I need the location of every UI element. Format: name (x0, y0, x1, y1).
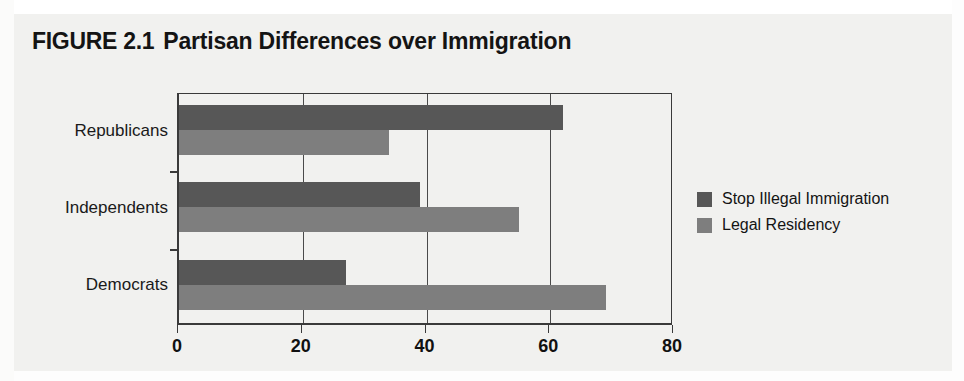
value-tick-80 (672, 325, 673, 333)
value-tick-label-60: 60 (538, 336, 558, 357)
page-edge-right (952, 0, 964, 381)
category-label-republicans: Republicans (18, 121, 168, 141)
legend-item-1[interactable]: Legal Residency (697, 212, 889, 238)
chart-legend: Stop Illegal ImmigrationLegal Residency (697, 186, 889, 238)
figure-number-label: FIGURE 2.1 (32, 28, 154, 54)
value-tick-label-80: 80 (662, 336, 682, 357)
bar-group-democrats (179, 249, 671, 326)
value-tick-60 (548, 325, 549, 333)
value-tick-0 (177, 325, 178, 333)
legend-swatch-stop-illegal-immigration (697, 192, 712, 207)
bar-group-republicans (179, 94, 671, 171)
category-tick-1 (170, 249, 179, 251)
category-label-democrats: Democrats (18, 275, 168, 295)
figure-caption-label: Partisan Differences over Immigration (163, 28, 571, 54)
category-tick-0 (170, 171, 179, 173)
figure-container: FIGURE 2.1Partisan Differences over Immi… (0, 0, 964, 381)
value-axis: 020406080 (177, 325, 672, 365)
bar-democrats-series-0[interactable] (179, 260, 346, 285)
value-tick-label-20: 20 (291, 336, 311, 357)
value-tick-label-0: 0 (172, 336, 182, 357)
legend-label-0: Stop Illegal Immigration (722, 190, 889, 208)
bar-independents-series-1[interactable] (179, 207, 519, 232)
legend-label-1: Legal Residency (722, 216, 840, 234)
legend-item-0[interactable]: Stop Illegal Immigration (697, 186, 889, 212)
bar-republicans-series-0[interactable] (179, 105, 563, 130)
page-edge-bottom (0, 371, 964, 381)
bar-independents-series-0[interactable] (179, 182, 420, 207)
page-edge-left (0, 0, 14, 381)
page-edge-top (0, 0, 964, 14)
figure-title: FIGURE 2.1Partisan Differences over Immi… (32, 28, 571, 55)
bar-democrats-series-1[interactable] (179, 285, 606, 310)
value-tick-20 (301, 325, 302, 333)
value-tick-label-40: 40 (414, 336, 434, 357)
category-label-independents: Independents (18, 198, 168, 218)
bar-republicans-series-1[interactable] (179, 130, 389, 155)
value-tick-40 (425, 325, 426, 333)
legend-swatch-legal-residency (697, 218, 712, 233)
category-axis-labels: RepublicansIndependentsDemocrats (18, 93, 168, 325)
bar-group-independents (179, 171, 671, 248)
plot-area (177, 93, 672, 325)
